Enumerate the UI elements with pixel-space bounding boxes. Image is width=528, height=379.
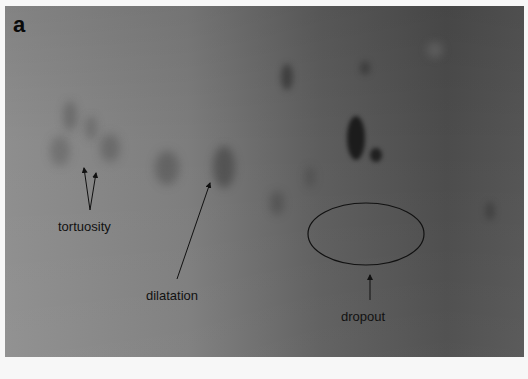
tortuosity-arrow-2 [90,173,96,210]
annotation-overlay [0,0,528,379]
dropout-ellipse [308,203,424,265]
dilatation-arrow [177,183,210,279]
tortuosity-label: tortuosity [58,219,111,234]
dropout-label: dropout [341,309,385,324]
dilatation-label: dilatation [146,288,198,303]
tortuosity-arrow-1 [84,168,90,210]
